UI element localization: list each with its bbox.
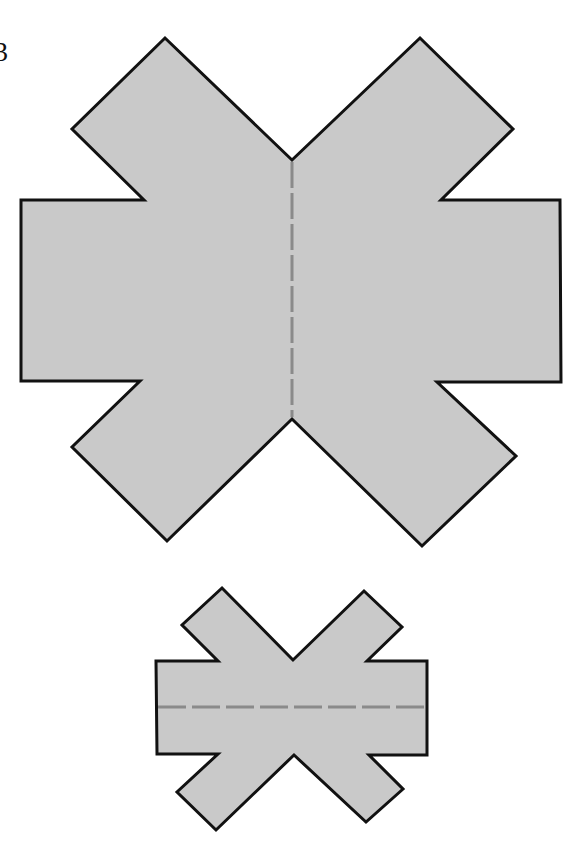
figure-canvas — [0, 0, 572, 842]
small-x-net-shape — [156, 588, 427, 830]
